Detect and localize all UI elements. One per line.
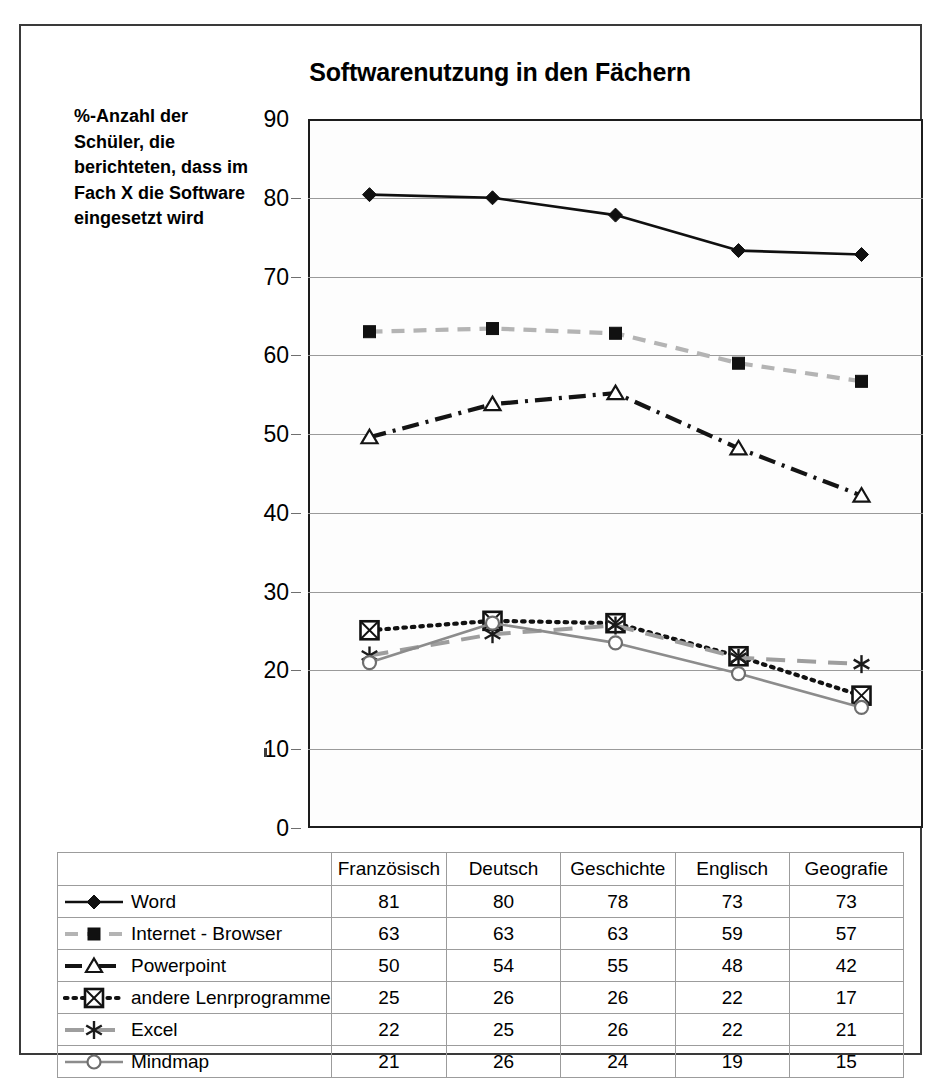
table-cell: 17	[789, 982, 903, 1014]
legend-entry: Mindmap	[63, 1047, 331, 1076]
table-row: Excel2225262221	[58, 1014, 904, 1046]
series-powerpoint	[362, 386, 870, 502]
legend-marker-asterisk-icon	[63, 1019, 125, 1041]
legend-row-mindmap[interactable]: Mindmap	[58, 1046, 332, 1078]
table-cell: 19	[675, 1046, 789, 1078]
plot-region	[308, 119, 923, 828]
legend-label: Powerpoint	[131, 956, 226, 975]
legend-marker-open-circle-icon	[63, 1051, 125, 1073]
legend-entry: andere Lenrprogramme	[63, 983, 331, 1012]
legend-row-internet-browser[interactable]: Internet - Browser	[58, 918, 332, 950]
chart-figure: Softwarenutzung in den Fächern %-Anzahl …	[19, 24, 922, 1055]
column-header: Französisch	[331, 853, 447, 886]
y-tick-mark	[291, 198, 301, 199]
y-tick-label: 10	[263, 736, 289, 763]
table-cell: 63	[447, 918, 561, 950]
table-cell: 59	[675, 918, 789, 950]
table-cell: 73	[675, 886, 789, 918]
y-tick-mark	[291, 670, 301, 671]
table-cell: 63	[331, 918, 447, 950]
y-tick-mark	[291, 434, 301, 435]
table-cell: 26	[560, 982, 675, 1014]
table-cell: 63	[560, 918, 675, 950]
column-header: Geografie	[789, 853, 903, 886]
legend-row-powerpoint[interactable]: Powerpoint	[58, 950, 332, 982]
legend-label: Word	[131, 892, 176, 911]
data-table: FranzösischDeutschGeschichteEnglischGeog…	[57, 852, 904, 1078]
table-cell: 22	[675, 1014, 789, 1046]
table-cell: 26	[447, 1046, 561, 1078]
legend-marker-filled-diamond-icon	[63, 891, 125, 913]
legend-label: Mindmap	[131, 1052, 209, 1071]
y-tick-mark	[291, 277, 301, 278]
table-row: Mindmap2126241915	[58, 1046, 904, 1078]
table-cell: 55	[560, 950, 675, 982]
series-word	[363, 188, 869, 262]
table-cell: 22	[675, 982, 789, 1014]
legend-label: Internet - Browser	[131, 924, 282, 943]
table-cell: 26	[560, 1014, 675, 1046]
table-cell: 57	[789, 918, 903, 950]
table-cell: 78	[560, 886, 675, 918]
legend-marker-open-triangle-icon	[63, 955, 125, 977]
table-cell: 42	[789, 950, 903, 982]
table-cell: 21	[331, 1046, 447, 1078]
table-cell: 48	[675, 950, 789, 982]
table-cell: 25	[447, 1014, 561, 1046]
y-tick-label: 60	[263, 342, 289, 369]
table-corner-cell	[58, 853, 332, 886]
table-cell: 80	[447, 886, 561, 918]
y-tick-label: 50	[263, 421, 289, 448]
legend-entry: Internet - Browser	[63, 919, 331, 948]
column-header: Deutsch	[447, 853, 561, 886]
table-row: andere Lenrprogramme2526262217	[58, 982, 904, 1014]
series-internet-browser	[364, 323, 868, 388]
legend-entry: Word	[63, 887, 331, 916]
y-tick-mark	[291, 355, 301, 356]
y-axis-caption: %-Anzahl der Schüler, die berichteten, d…	[74, 104, 254, 232]
legend-row-andere-lenrprogramme[interactable]: andere Lenrprogramme	[58, 982, 332, 1014]
legend-marker-boxed-x-icon	[63, 987, 125, 1009]
table-cell: 22	[331, 1014, 447, 1046]
y-tick-label: 30	[263, 578, 289, 605]
y-tick-label: 0	[276, 815, 289, 842]
legend-label: Excel	[131, 1020, 177, 1039]
legend-entry: Excel	[63, 1015, 331, 1044]
table-header-row: FranzösischDeutschGeschichteEnglischGeog…	[58, 853, 904, 886]
table-cell: 15	[789, 1046, 903, 1078]
y-tick-mark	[291, 749, 301, 750]
chart-title: Softwarenutzung in den Fächern	[21, 58, 924, 87]
y-tick-label: 80	[263, 184, 289, 211]
series-lines-svg	[308, 119, 923, 828]
table-cell: 26	[447, 982, 561, 1014]
y-tick-mark	[291, 828, 301, 829]
table-row: Word8180787373	[58, 886, 904, 918]
y-tick-mark	[291, 592, 301, 593]
table-cell: 73	[789, 886, 903, 918]
legend-row-excel[interactable]: Excel	[58, 1014, 332, 1046]
table-cell: 50	[331, 950, 447, 982]
table-cell: 25	[331, 982, 447, 1014]
legend-entry: Powerpoint	[63, 951, 331, 980]
table-cell: 21	[789, 1014, 903, 1046]
table-row: Internet - Browser6363635957	[58, 918, 904, 950]
table-row: Powerpoint5054554842	[58, 950, 904, 982]
table-cell: 54	[447, 950, 561, 982]
y-tick-label: 40	[263, 499, 289, 526]
column-header: Geschichte	[560, 853, 675, 886]
column-header: Englisch	[675, 853, 789, 886]
table-cell: 24	[560, 1046, 675, 1078]
y-tick-label: 20	[263, 657, 289, 684]
legend-row-word[interactable]: Word	[58, 886, 332, 918]
legend-marker-filled-square-icon	[63, 923, 125, 945]
y-tick-mark	[291, 513, 301, 514]
table-cell: 81	[331, 886, 447, 918]
y-tick-label: 70	[263, 263, 289, 290]
scan-artifact-speck	[264, 748, 267, 757]
y-tick-label: 90	[263, 106, 289, 133]
legend-label: andere Lenrprogramme	[131, 988, 331, 1007]
